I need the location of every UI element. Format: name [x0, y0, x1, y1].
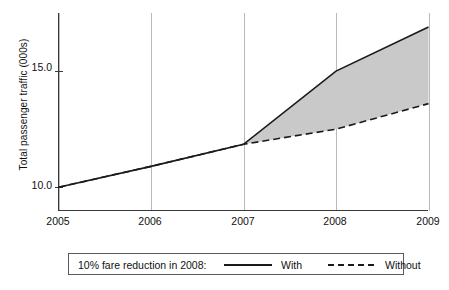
x-tick-label-2007: 2007 — [213, 215, 273, 227]
chart-legend: 10% fare reduction in 2008: With Without — [68, 253, 404, 275]
x-tick-label-2009: 2009 — [398, 215, 449, 227]
y-tick-label-10-text: 10.0 — [32, 179, 52, 191]
legend-title: 10% fare reduction in 2008: — [78, 259, 206, 271]
x-tick-label-2005: 2005 — [28, 215, 88, 227]
y-tick-label-15-text: 15.0 — [32, 61, 52, 73]
x-tick-label-2006: 2006 — [120, 215, 180, 227]
legend-label-without: Without — [385, 259, 421, 271]
y-tick-label-10: 10.0 — [6, 179, 52, 191]
plot-area — [0, 0, 449, 290]
legend-swatch-without — [328, 264, 376, 266]
legend-swatch-with — [224, 264, 272, 266]
y-tick-label-15: 15.0 — [6, 61, 52, 73]
x-tick-label-2008: 2008 — [305, 215, 365, 227]
y-axis-title: Total passenger traffic (000s) — [18, 5, 29, 205]
legend-label-with: With — [281, 259, 302, 271]
chart-figure: Total passenger traffic (000s) 15.0 10.0… — [0, 0, 449, 290]
